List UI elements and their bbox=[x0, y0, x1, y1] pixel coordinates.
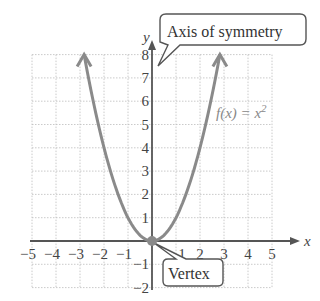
y-tick-label: 8 bbox=[142, 47, 150, 63]
y-tick-label: 6 bbox=[142, 93, 150, 109]
vertex-point bbox=[147, 236, 157, 246]
x-tick-label: −2 bbox=[92, 246, 108, 262]
y-tick-label: 5 bbox=[142, 117, 150, 133]
x-tick-label: 5 bbox=[268, 246, 276, 262]
vertex-callout: Vertex bbox=[154, 243, 223, 286]
y-tick-label: −2 bbox=[133, 280, 149, 296]
y-axis-label: y bbox=[141, 29, 150, 45]
x-axis-label: x bbox=[303, 233, 311, 249]
parabola-chart: x y −5−4−3−2−112345 −2−112345678 Axis of… bbox=[0, 0, 320, 301]
y-tick-labels: −2−112345678 bbox=[133, 47, 149, 296]
x-tick-label: −3 bbox=[68, 246, 84, 262]
function-label: f(x) = x2 bbox=[216, 102, 267, 122]
x-tick-label: −1 bbox=[116, 246, 132, 262]
y-tick-label: 3 bbox=[142, 163, 150, 179]
vertex-label: Vertex bbox=[168, 265, 210, 282]
x-tick-label: 4 bbox=[244, 246, 252, 262]
y-tick-label: −1 bbox=[133, 256, 149, 272]
y-tick-label: 4 bbox=[142, 140, 150, 156]
y-tick-label: 1 bbox=[142, 210, 150, 226]
y-tick-label: 7 bbox=[142, 70, 150, 86]
x-tick-label: −4 bbox=[44, 246, 60, 262]
x-axis-arrow-icon bbox=[290, 237, 300, 245]
x-tick-label: −5 bbox=[20, 246, 36, 262]
y-tick-label: 2 bbox=[142, 186, 150, 202]
axis-of-symmetry-callout: Axis of symmetry bbox=[158, 14, 306, 66]
axis-of-symmetry-label: Axis of symmetry bbox=[167, 23, 283, 41]
